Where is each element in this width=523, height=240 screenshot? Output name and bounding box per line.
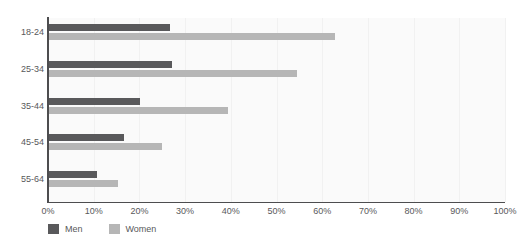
x-axis-label-100%: 100%: [493, 206, 516, 216]
x-axis-label-70%: 70%: [359, 206, 377, 216]
bar-women-35-44[interactable]: [48, 107, 228, 114]
bar-women-25-34[interactable]: [48, 70, 297, 77]
bar-group: [48, 55, 505, 92]
bar-women-55-64[interactable]: [48, 180, 118, 187]
bar-group: [48, 92, 505, 129]
bar-chart: 18-2425-3435-4445-5455-64 0%10%20%30%40%…: [0, 0, 523, 240]
y-axis-label-45-54: 45-54: [0, 137, 44, 147]
bar-group: [48, 128, 505, 165]
x-axis-label-0%: 0%: [41, 206, 54, 216]
legend-label-women: Women: [126, 224, 157, 234]
y-axis-line: [47, 17, 49, 203]
y-axis-label-55-64: 55-64: [0, 174, 44, 184]
legend-item-men[interactable]: Men: [48, 224, 83, 234]
bar-men-55-64[interactable]: [48, 171, 97, 178]
x-axis-label-60%: 60%: [313, 206, 331, 216]
x-axis-label-80%: 80%: [405, 206, 423, 216]
grid-line: [505, 18, 506, 202]
chart-legend: Men Women: [48, 224, 156, 234]
bar-women-18-24[interactable]: [48, 33, 335, 40]
x-axis-line: [48, 202, 505, 203]
x-axis-label-50%: 50%: [267, 206, 285, 216]
x-axis-label-30%: 30%: [176, 206, 194, 216]
bar-women-45-54[interactable]: [48, 143, 162, 150]
bar-group: [48, 165, 505, 202]
plot-area: [48, 18, 505, 202]
bar-men-45-54[interactable]: [48, 134, 124, 141]
x-axis-label-20%: 20%: [130, 206, 148, 216]
x-axis-label-40%: 40%: [222, 206, 240, 216]
x-axis-label-10%: 10%: [85, 206, 103, 216]
bar-men-25-34[interactable]: [48, 61, 172, 68]
legend-swatch-men-icon: [48, 224, 59, 234]
y-axis-label-18-24: 18-24: [0, 27, 44, 37]
legend-item-women[interactable]: Women: [109, 224, 157, 234]
bar-group: [48, 18, 505, 55]
y-axis-label-35-44: 35-44: [0, 101, 44, 111]
legend-swatch-women-icon: [109, 224, 120, 234]
legend-label-men: Men: [65, 224, 83, 234]
y-axis-label-25-34: 25-34: [0, 64, 44, 74]
x-axis-label-90%: 90%: [450, 206, 468, 216]
bar-men-18-24[interactable]: [48, 24, 170, 31]
bar-men-35-44[interactable]: [48, 98, 140, 105]
